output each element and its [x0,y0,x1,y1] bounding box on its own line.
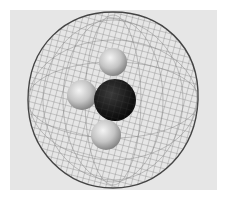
hydrogen-atom-top [99,48,127,76]
hydrogen-atom-bottom [91,120,121,150]
hydrogen-atom-left [67,80,97,110]
carbon-mesh-overlay [94,79,136,121]
molecule-figure [0,0,228,203]
